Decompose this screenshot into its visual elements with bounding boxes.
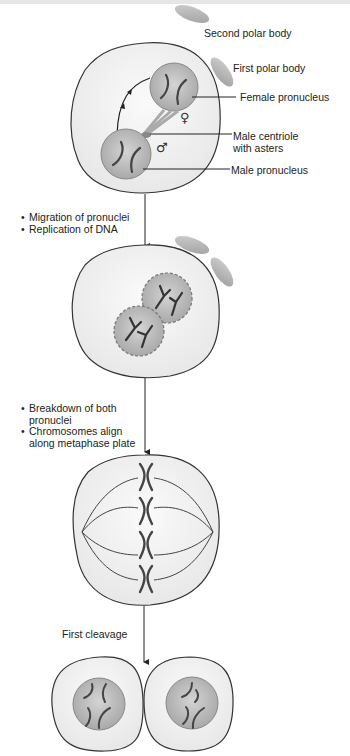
transition1-bullets: Migration of pronuclei Replication of DN… [21,212,129,235]
bullet-chromosomes-align: Chromosomes alignalong metaphase plate [21,426,135,449]
label-first-cleavage: First cleavage [62,628,127,640]
stage2-replication [72,232,237,377]
female-symbol-icon: ♀ [180,110,190,125]
transition2-bullets: Breakdown of bothpronuclei Chromosomes a… [21,403,135,449]
label-female-pronucleus: Female pronucleus [240,91,329,103]
second-polar-body [173,1,212,26]
label-male-pronucleus: Male pronucleus [231,164,308,176]
label-second-polar-body: Second polar body [204,27,292,39]
stage3-metaphase [73,455,219,605]
diagram-canvas [0,0,350,756]
female-pronucleus [150,63,198,111]
label-male-centriole: Male centriole [233,130,298,142]
bullet-migration: Migration of pronuclei [21,212,129,224]
bullet-breakdown: Breakdown of bothpronuclei [21,403,135,426]
label-first-polar-body: First polar body [233,62,305,74]
male-pronucleus [101,129,151,179]
zygote-membrane [71,43,220,193]
stage4-two-cell [52,657,233,751]
label-male-centriole-2: with asters [233,142,283,154]
male-symbol-icon: ♂ [156,140,168,155]
bullet-replication: Replication of DNA [21,224,129,236]
